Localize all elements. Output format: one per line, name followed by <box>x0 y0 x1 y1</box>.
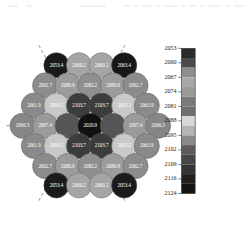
colorbar-tick-label: 2095 <box>164 132 176 138</box>
cell-value: 2097.4 <box>129 122 143 128</box>
cell-value: 2020.9 <box>84 122 98 128</box>
cell-value: 2061.9 <box>27 102 41 108</box>
cell[interactable]: 2053.4 <box>112 173 137 198</box>
cell-value: 2097.4 <box>38 122 52 128</box>
cell-value: 2060.2 <box>72 182 86 188</box>
colorbar-tick-label: 2074 <box>164 88 176 94</box>
colorbar-tick-label: 2053 <box>164 45 176 51</box>
cell-value: 2082.2 <box>84 163 98 169</box>
cell-value: 2063.4 <box>117 62 131 68</box>
cell-value: 2103.7 <box>95 142 109 148</box>
cell-value: 2080.9 <box>61 82 75 88</box>
figure-canvas: 2053.4 2060.2 2060.2 2063.4 2062.7 <box>0 0 248 231</box>
cell-value: 2061.9 <box>140 142 154 148</box>
colorbar-tick-label: 2102 <box>164 146 176 152</box>
colorbar-tick-label: 2088 <box>164 117 176 123</box>
colorbar-tick-label: 2060 <box>164 59 176 65</box>
cell-value: 2062.7 <box>129 163 143 169</box>
colorbar-tick-label: 2081 <box>164 103 176 109</box>
cell-value: 2066.3 <box>16 122 30 128</box>
cell[interactable]: 2060.2 <box>89 173 114 198</box>
cell-value: 2061.9 <box>140 102 154 108</box>
cell-value: 2053.4 <box>117 182 131 188</box>
colorbar-bands <box>181 48 195 193</box>
colorbar[interactable]: 2053 2060 2067 2074 2081 2088 2095 2102 … <box>164 45 195 196</box>
cell-value: 2080.9 <box>106 163 120 169</box>
cell-value: 2093.2 <box>50 142 64 148</box>
cell-value: 2093.2 <box>117 102 131 108</box>
cell-value: 2066.3 <box>151 122 165 128</box>
cell-value: 2053.4 <box>50 182 64 188</box>
cell-value: 2103.7 <box>72 142 86 148</box>
cell-value: 2060.2 <box>95 62 109 68</box>
cell-row-2: 2062.7 2080.9 2082.2 2080.9 2062.7 <box>33 73 148 98</box>
colorbar-tick-label: 2067 <box>164 74 176 80</box>
cell-value: 2053.4 <box>50 62 64 68</box>
cell-value: 2060.2 <box>95 182 109 188</box>
cell-value: 2103.7 <box>95 102 109 108</box>
colorbar-tick-label: 2109 <box>164 161 176 167</box>
colorbar-tick-label: 2124 <box>164 190 176 196</box>
hex-cell-map: 2053.4 2060.2 2060.2 2063.4 2062.7 <box>0 10 200 231</box>
cell-value: 2093.2 <box>50 102 64 108</box>
cell-value: 2082.2 <box>84 82 98 88</box>
cell-value: 2080.9 <box>61 163 75 169</box>
cell[interactable]: 2060.2 <box>66 173 91 198</box>
cell-value: 2062.7 <box>38 82 52 88</box>
cell-value: 2103.7 <box>72 102 86 108</box>
cell-value: 2062.7 <box>129 82 143 88</box>
colorbar-tick-label: 2116 <box>165 175 177 181</box>
cell[interactable]: 2053.4 <box>44 173 69 198</box>
cell-value: 2061.9 <box>27 142 41 148</box>
colorbar-ticks <box>178 48 181 193</box>
cell-value: 2080.9 <box>106 82 120 88</box>
cell-value: 2062.7 <box>38 163 52 169</box>
cell-value: 2093.2 <box>117 142 131 148</box>
cell-value: 2060.2 <box>72 62 86 68</box>
